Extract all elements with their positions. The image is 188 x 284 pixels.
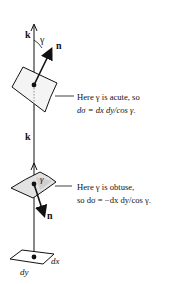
k-label-lower: k (25, 131, 31, 142)
caption-lower-line1: Here γ is obtuse, (77, 182, 134, 192)
n-label-top: n (56, 40, 62, 51)
point-lower-icon (32, 182, 37, 187)
k-label-top: k (25, 29, 31, 40)
gamma-label-top: γ (39, 34, 45, 45)
caption-top-line2: dσ = dx dy/cos γ. (77, 105, 136, 115)
surface-element-diagram: k γ n Here γ is acute, so dσ = dx dy/cos… (0, 0, 188, 284)
dx-label: dx (51, 256, 60, 266)
gamma-label-lower: γ (40, 174, 44, 184)
n-label-lower: n (47, 210, 53, 221)
base-area-element (10, 250, 54, 264)
caption-lower-line2: so dσ = −dx dy/cos γ. (77, 195, 151, 205)
point-top-icon (32, 83, 37, 88)
dy-label: dy (20, 267, 29, 277)
vertical-axis (31, 24, 37, 257)
point-base-icon (32, 255, 37, 260)
caption-top-line1: Here γ is acute, so (77, 92, 140, 102)
